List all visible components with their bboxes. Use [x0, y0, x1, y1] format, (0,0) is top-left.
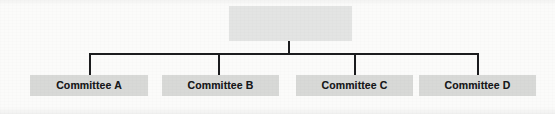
connector-drop-committee-b	[218, 53, 220, 75]
org-node-committee-d-label: Committee D	[444, 80, 510, 91]
org-node-committee-b-label: Committee B	[187, 80, 253, 91]
scan-artifact-top	[0, 0, 555, 5]
org-node-committee-b[interactable]: Committee B	[162, 75, 279, 96]
org-chart-diagram: Committee A Committee B Committee C Comm…	[0, 0, 555, 114]
org-node-committee-a-label: Committee A	[56, 80, 122, 91]
org-node-root[interactable]	[229, 6, 352, 41]
connector-horizontal-bus	[89, 53, 478, 55]
org-node-committee-a[interactable]: Committee A	[30, 75, 148, 96]
org-node-committee-c[interactable]: Committee C	[296, 75, 413, 96]
org-node-committee-c-label: Committee C	[321, 80, 387, 91]
org-node-committee-d[interactable]: Committee D	[419, 75, 536, 96]
connector-drop-committee-c	[354, 53, 356, 75]
scan-artifact-bottom	[0, 107, 555, 114]
connector-drop-committee-d	[477, 53, 479, 75]
connector-root-stem	[288, 40, 290, 54]
connector-drop-committee-a	[89, 53, 91, 75]
